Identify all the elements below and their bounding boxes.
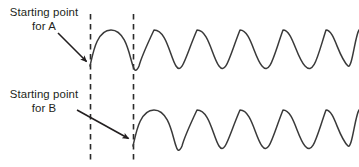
starting-point-a-label: Starting point for A	[2, 6, 86, 33]
annotation-arrow-a	[58, 33, 87, 62]
starting-point-b-label: Starting point for B	[2, 88, 86, 115]
wave-a-path	[90, 30, 359, 70]
wave-b-path	[133, 110, 359, 150]
wave-phase-diagram: Starting point for A Starting point for …	[0, 0, 359, 167]
